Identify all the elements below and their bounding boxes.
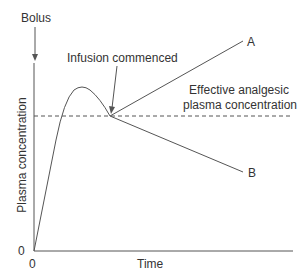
line-b <box>110 116 243 172</box>
label-a: A <box>247 35 255 49</box>
bolus-label: Bolus <box>21 11 51 25</box>
threshold-label-2: plasma concentration <box>183 98 297 112</box>
pk-diagram: Bolus Infusion commenced A B Effective a… <box>0 0 308 279</box>
infusion-arrowhead-icon <box>109 106 115 114</box>
bolus-curve <box>34 87 110 251</box>
y-axis-label: Plasma concentration <box>15 97 29 212</box>
x-axis-label: Time <box>137 257 164 271</box>
label-b: B <box>248 166 256 180</box>
infusion-label: Infusion commenced <box>67 51 178 65</box>
x-origin-label: 0 <box>29 257 36 271</box>
bolus-arrowhead-icon <box>32 54 38 61</box>
y-origin-label: 0 <box>18 244 25 258</box>
threshold-label-1: Effective analgesic <box>189 83 289 97</box>
infusion-arrow <box>112 66 117 108</box>
